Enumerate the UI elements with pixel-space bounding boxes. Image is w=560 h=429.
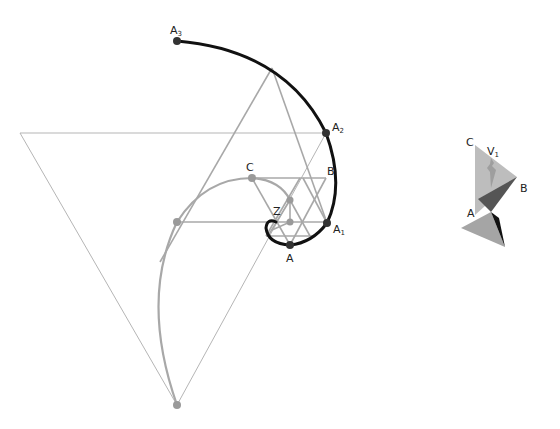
gray-spiral-arc	[159, 178, 291, 405]
dark-points	[173, 37, 331, 249]
label-a1: A1	[333, 223, 345, 237]
inset-label-c: C	[466, 136, 474, 149]
black-spiral-arc	[177, 41, 336, 245]
diagram-canvas: A3 A2 A1 A C B Z V1 C B A	[0, 0, 560, 429]
label-c: C	[246, 161, 254, 174]
label-b: B	[327, 165, 335, 178]
inset-tetrahedra	[461, 145, 517, 247]
label-a3: A3	[170, 24, 182, 38]
label-v1: V1	[487, 145, 499, 159]
label-a2: A2	[332, 121, 344, 135]
label-a: A	[286, 252, 294, 265]
inset-label-a: A	[467, 207, 475, 220]
construction-lines	[20, 133, 326, 405]
label-z: Z	[273, 205, 281, 218]
inset-label-b: B	[520, 182, 528, 195]
